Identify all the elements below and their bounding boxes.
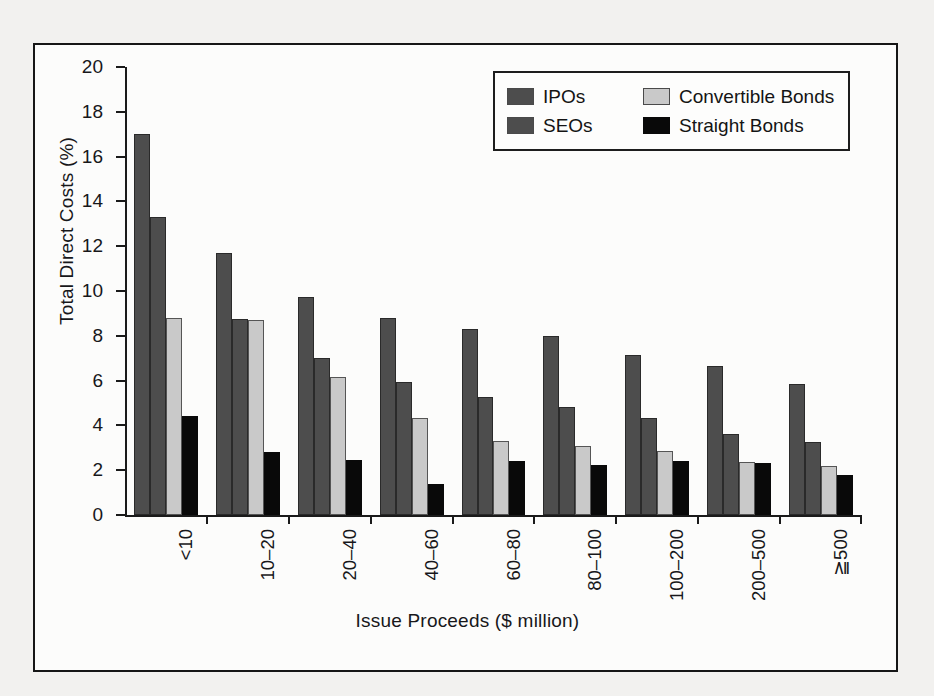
bar[interactable] [248,320,264,515]
bar[interactable] [837,475,853,515]
x-category-label: 60–80 [503,529,525,580]
bar[interactable] [625,355,641,515]
x-separator-tick [860,515,862,524]
bar[interactable] [264,452,280,515]
x-separator-tick [370,515,372,524]
bar[interactable] [559,407,575,515]
bar[interactable] [739,462,755,515]
bar[interactable] [298,297,314,515]
bar-group [298,67,362,515]
y-tick-mark: 0 [116,514,125,516]
legend-entry-straight-bonds[interactable]: Straight Bonds [643,115,804,137]
x-category-label: 10–20 [257,529,279,580]
legend-swatch-icon-ipos [507,88,534,105]
y-tick-mark: 8 [116,335,125,337]
x-axis-line [125,515,862,517]
bar[interactable] [346,460,362,515]
bar-group [134,67,198,515]
y-tick-label: 6 [92,370,103,392]
legend-label-straight-bonds: Straight Bonds [679,115,804,137]
bar[interactable] [821,466,837,515]
y-tick-mark: 14 [116,200,125,202]
x-category-label: 200–500 [748,529,770,601]
y-axis-line [125,67,127,515]
bar[interactable] [543,336,559,515]
chart-legend: IPOs Convertible Bonds SEOs Straight Bon… [493,71,850,151]
y-tick-label: 20 [82,56,103,78]
bar[interactable] [493,441,509,515]
y-tick-label: 8 [92,325,103,347]
x-category-label: <10 [175,529,197,560]
x-category-label: 100–200 [666,529,688,601]
legend-entry-seos[interactable]: SEOs [507,115,621,137]
legend-entry-convertible-bonds[interactable]: Convertible Bonds [643,86,834,108]
bar[interactable] [805,442,821,515]
legend-swatch-icon-straight-bonds [643,117,670,134]
bar[interactable] [428,484,444,515]
legend-entry-ipos[interactable]: IPOs [507,86,621,108]
bar[interactable] [509,461,525,515]
legend-label-seos: SEOs [543,115,621,137]
x-category-label: ≧500 [830,529,852,576]
y-tick-mark: 12 [116,245,125,247]
y-tick-label: 12 [82,235,103,257]
bar[interactable] [789,384,805,515]
y-tick-mark: 4 [116,424,125,426]
bar[interactable] [755,463,771,515]
bar-group [380,67,444,515]
x-separator-tick [779,515,781,524]
bar[interactable] [641,418,657,515]
y-tick-label: 10 [82,280,103,302]
y-tick-mark: 18 [116,111,125,113]
x-separator-tick [206,515,208,524]
y-tick-label: 16 [82,146,103,168]
y-tick-mark: 2 [116,469,125,471]
bar[interactable] [216,253,232,515]
legend-label-ipos: IPOs [543,86,621,108]
y-tick-mark: 20 [116,66,125,68]
y-tick-mark: 10 [116,290,125,292]
y-tick-label: 14 [82,190,103,212]
y-tick-label: 4 [92,414,103,436]
bar[interactable] [673,461,689,515]
bar[interactable] [575,446,591,515]
bar[interactable] [707,366,723,515]
x-separator-tick [615,515,617,524]
bar[interactable] [591,465,607,515]
legend-swatch-icon-seos [507,117,534,134]
x-category-label: 80–100 [584,529,606,591]
bar[interactable] [182,416,198,515]
x-axis-title: Issue Proceeds ($ million) [35,610,900,632]
x-separator-tick [533,515,535,524]
bar[interactable] [723,434,739,515]
chart-figure-frame: Total Direct Costs (%) Issue Proceeds ($… [33,43,898,672]
bar-group [216,67,280,515]
x-category-label: 20–40 [339,529,361,580]
bar[interactable] [150,217,166,515]
bar[interactable] [657,451,673,515]
bar[interactable] [412,418,428,515]
bar[interactable] [396,382,412,515]
x-category-label: 40–60 [421,529,443,580]
y-tick-mark: 16 [116,156,125,158]
x-separator-tick [452,515,454,524]
x-separator-tick [288,515,290,524]
y-tick-label: 18 [82,101,103,123]
bar[interactable] [462,329,478,515]
screenshot-root: Total Direct Costs (%) Issue Proceeds ($… [0,0,934,696]
y-tick-label: 2 [92,459,103,481]
x-separator-tick [697,515,699,524]
y-axis-title: Total Direct Costs (%) [56,81,78,381]
bar[interactable] [134,134,150,515]
bar[interactable] [330,377,346,515]
bar[interactable] [166,318,182,515]
y-tick-mark: 6 [116,380,125,382]
bar[interactable] [380,318,396,515]
bar[interactable] [314,358,330,515]
legend-label-convertible-bonds: Convertible Bonds [679,86,834,108]
legend-swatch-icon-convertible-bonds [643,88,670,105]
legend-row: IPOs Convertible Bonds [507,82,834,111]
bar[interactable] [478,397,494,515]
bar[interactable] [232,319,248,515]
y-tick-label: 0 [92,504,103,526]
